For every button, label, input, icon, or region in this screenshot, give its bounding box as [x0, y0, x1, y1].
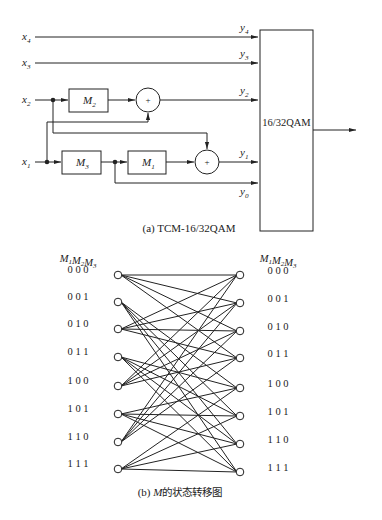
next-state-node [236, 384, 244, 392]
transition-edge [121, 388, 237, 414]
junction-dot [45, 160, 50, 165]
junction-dots [45, 98, 118, 165]
transition-edge [121, 469, 237, 472]
current-state-label: 0 1 1 [68, 346, 89, 357]
next-state-label: 0 1 1 [268, 348, 289, 359]
transition-lines [121, 275, 237, 472]
next-state-node [236, 271, 244, 279]
transition-edge [121, 331, 237, 442]
current-state-node [114, 298, 122, 306]
x3-label: x3 [21, 56, 31, 71]
next-state-label: 1 1 1 [268, 462, 289, 473]
figure-b-caption: (b) M的状态转移图 [138, 486, 223, 499]
current-state-node [114, 271, 122, 279]
transition-edge [121, 275, 237, 303]
y1-label: y1 [239, 146, 248, 161]
next-state-node [236, 412, 244, 420]
current-state-node [114, 438, 122, 446]
qam-mapper-box [260, 30, 313, 231]
transition-edge [121, 329, 237, 358]
current-state-label: 1 1 0 [68, 431, 89, 442]
next-state-node [236, 440, 244, 448]
delay-m1-label: M1 [141, 156, 155, 171]
next-state-label: 1 0 1 [268, 406, 289, 417]
next-state-label: 1 1 0 [268, 434, 289, 445]
upper-adder-plus-icon: + [145, 95, 150, 105]
x2-feed-line [53, 100, 207, 149]
y0-line [115, 162, 258, 183]
current-state-label: 1 0 1 [68, 403, 89, 414]
y0-label: y0 [239, 185, 249, 200]
qam-mapper-label: 16/32QAM [262, 117, 311, 128]
delay-m3-label: M3 [75, 156, 89, 171]
lower-adder-plus-icon: + [204, 157, 209, 167]
figure-a-caption: (a) TCM-16/32QAM [143, 222, 236, 235]
transition-edge [121, 275, 237, 442]
x1-label: x1 [21, 155, 30, 170]
y3-label: y3 [239, 47, 249, 62]
encoder-block-diagram [35, 30, 356, 231]
y4-label: y4 [239, 21, 249, 36]
next-state-label: 1 0 0 [268, 378, 289, 389]
tcm-diagram: x4x3x2x1y4y3y2y1y0M2M3M1++16/32QAM(a) TC… [0, 0, 382, 520]
junction-dot [113, 160, 118, 165]
current-state-node [114, 465, 122, 473]
next-state-label: 0 1 0 [268, 321, 289, 332]
next-state-node [236, 354, 244, 362]
current-state-label: 0 1 0 [68, 318, 89, 329]
current-state-label: 0 0 1 [68, 291, 89, 302]
transition-edge [121, 416, 237, 469]
delay-m2-label: M2 [82, 94, 96, 109]
current-state-label: 1 1 1 [68, 458, 89, 469]
next-state-node [236, 299, 244, 307]
x2-label: x2 [21, 93, 31, 108]
encoder-labels: x4x3x2x1y4y3y2y1y0M2M3M1++16/32QAM(a) TC… [21, 21, 311, 235]
next-state-node [236, 468, 244, 476]
state-transition-trellis: 0 0 00 0 00 0 10 0 10 1 00 1 00 1 10 1 1… [59, 253, 297, 499]
next-state-node [236, 327, 244, 335]
next-state-label: 0 0 1 [268, 293, 289, 304]
junction-dot [51, 98, 56, 103]
y2-label: y2 [239, 84, 249, 99]
current-state-label: 1 0 0 [68, 375, 89, 386]
current-state-node [114, 325, 122, 333]
current-state-node [114, 353, 122, 361]
x4-label: x4 [21, 30, 31, 45]
current-state-node [114, 410, 122, 418]
current-state-node [114, 382, 122, 390]
